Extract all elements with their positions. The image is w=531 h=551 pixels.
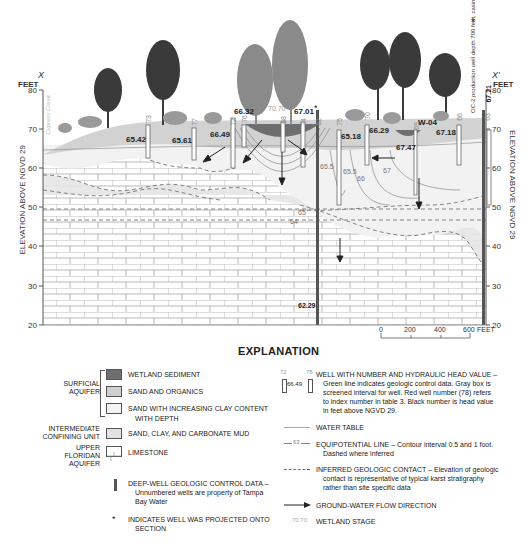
water-table-line <box>284 427 310 428</box>
deep-well-desc1: Unnumbered wells are property of Tampa <box>135 488 263 497</box>
unit-sand-clay-2: WITH DEPTH <box>135 414 179 423</box>
deep-well-icon <box>114 479 117 491</box>
production-well-note: OC-2 production well depth 700 feet, cas… <box>470 28 476 113</box>
unit-limestone: LIMESTONE <box>128 448 168 457</box>
well-symbol-desc4: in feet above NGVD 29. <box>323 406 397 415</box>
inferred-contact-line <box>284 469 310 470</box>
wetland-name: W-04 <box>418 118 437 127</box>
group-surficial: SURFICIAL AQUIFER <box>58 380 100 396</box>
flow-label: GROUND-WATER FLOW DIRECTION <box>316 501 437 510</box>
well-number: 74 <box>300 118 307 126</box>
y-tick-right: 70 <box>492 125 501 134</box>
flow-arrow-icon <box>284 501 312 509</box>
swatch-carbonate-mud <box>106 428 122 439</box>
head-value: 66.29 <box>369 126 389 135</box>
unit-sand-organics: SAND AND ORGANICS <box>128 387 203 396</box>
equipotential-label: EQUIPOTENTIAL LINE – Contour interval 0.… <box>316 440 493 449</box>
y-tick-right: 60 <box>492 164 501 173</box>
well-symbol-desc3: to index number in table 3. Black number… <box>323 397 493 406</box>
head-value: 65.42 <box>126 135 146 144</box>
swatch-sand-clay <box>106 403 122 414</box>
y-tick-left: 50 <box>28 203 37 212</box>
wetland-stage-label: WETLAND STAGE <box>316 517 375 526</box>
swatch-sand-organics <box>106 386 122 397</box>
well-number: 76 <box>241 115 248 123</box>
y-tick-left: 40 <box>28 242 37 251</box>
equipotential-label: 66 <box>357 175 365 182</box>
y-tick-left: 30 <box>28 282 37 291</box>
scale-tick: 200 <box>404 326 416 333</box>
section-left-label: X <box>38 70 44 80</box>
y-tick-left: 60 <box>28 164 37 173</box>
y-tick-left: 20 <box>28 321 37 330</box>
inferred-contact-label: INFERRED GEOLOGIC CONTACT – Elevation of… <box>316 465 499 474</box>
water-table-label: WATER TABLE <box>316 423 364 432</box>
projected-label: INDICATES WELL WAS PROJECTED ONTO <box>128 515 270 524</box>
creek-label: Cypress Creek <box>45 95 51 135</box>
scale-tick: 0 <box>379 326 383 333</box>
head-value: 67.21 <box>485 85 492 103</box>
surficial-bracket <box>100 370 105 417</box>
cross-section-graphic <box>0 0 531 340</box>
swatch-limestone <box>106 446 122 457</box>
well-symbol-box2 <box>308 379 313 393</box>
well-number: 70 <box>364 112 371 120</box>
equipotential-desc: Dashed where inferred <box>323 449 394 458</box>
head-value: 67.47 <box>396 143 416 152</box>
well-number: 62 <box>315 118 322 126</box>
equipotential-label: 65.5 <box>343 168 357 175</box>
well-symbol-desc2: screened interval for well. Red well num… <box>323 388 491 397</box>
well-number: 63 <box>484 113 491 121</box>
head-value: 65.18 <box>341 132 361 141</box>
scale-tick: 600 <box>463 326 475 333</box>
projected-star-icon: * <box>112 514 116 524</box>
well-symbol-num1: 72 <box>280 369 287 375</box>
well-symbol-label: WELL WITH NUMBER AND HYDRAULIC HEAD VALU… <box>316 370 497 379</box>
well-number: 73 <box>145 115 152 123</box>
deep-well-desc2: Bay Water <box>135 497 167 506</box>
equipotential-sample: 63 <box>292 439 301 445</box>
y-tick-left: 70 <box>28 125 37 134</box>
well-symbol-icon: 72 78 66.49 <box>280 369 316 395</box>
y-axis-title-left: ELEVATION ABOVE NGVD 29 <box>18 145 27 255</box>
explanation-title: EXPLANATION <box>238 345 319 357</box>
equipotential-label: 67 <box>383 167 391 174</box>
y-tick-right: 30 <box>492 282 501 291</box>
limestone-pattern-icon <box>107 452 121 461</box>
head-value: 65.61 <box>172 136 192 145</box>
swatch-wetland-sediment <box>106 369 122 380</box>
deep-well-head: 62.29 <box>298 302 316 309</box>
equipotential-label: 65.5 <box>320 163 334 170</box>
well-number: 72 <box>230 118 237 126</box>
equipotential-label: 65 <box>298 209 306 216</box>
y-tick-left: 80 <box>28 86 37 95</box>
scale-unit: FEET <box>477 326 495 333</box>
cross-section: X FEET X' FEET 80 70 60 50 40 30 20 80 7… <box>0 0 531 340</box>
head-value: 66.49 <box>210 130 230 139</box>
scale-tick: 400 <box>434 326 446 333</box>
unit-sand-clay: SAND WITH INCREASING CLAY CONTENT <box>128 404 268 413</box>
head-value: 66.32 <box>234 107 254 116</box>
well-number: 66 <box>456 113 463 121</box>
group-upper-floridan: UPPER FLORIDAN AQUIFER <box>40 444 100 468</box>
wetland-stage-value: 70.70 <box>268 105 286 112</box>
projected-label2: SECTION <box>135 524 166 533</box>
wetland-stage-sample: 70.70 <box>292 517 307 523</box>
inferred-contact-desc1: contact is representative of typical kar… <box>323 474 484 483</box>
y-tick-right: 80 <box>492 86 501 95</box>
well-number: 75 <box>336 118 343 126</box>
unit-wetland-sediment: WETLAND SEDIMENT <box>128 370 200 379</box>
unit-carbonate-mud: SAND, CLAY, AND CARBONATE MUD <box>128 429 249 438</box>
well-symbol-num2: 78 <box>306 369 313 375</box>
y-tick-right: 50 <box>492 203 501 212</box>
equipotential-label: 64 <box>290 218 298 225</box>
y-axis-title-right: ELEVATION ABOVE NGVD 29 <box>508 130 517 240</box>
deep-well-label: DEEP-WELL GEOLOGIC CONTROL DATA – <box>128 479 268 488</box>
well-symbol-desc1: Green line indicates geologic control da… <box>323 379 491 388</box>
y-tick-right: 40 <box>492 242 501 251</box>
group-intermediate: INTERMEDIATE CONFINING UNIT <box>40 425 100 441</box>
well-number: 77 <box>191 118 198 126</box>
head-value: 67.18 <box>436 128 456 137</box>
projected-star: * <box>314 103 318 113</box>
inferred-contact-desc2: rather than site specific data <box>323 483 411 492</box>
